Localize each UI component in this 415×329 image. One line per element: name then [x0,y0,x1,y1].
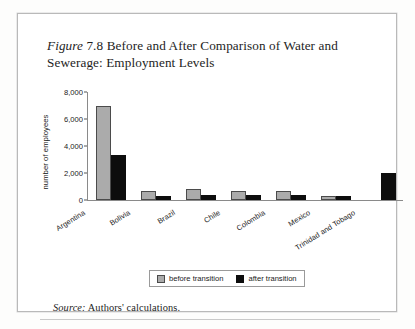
x-axis-label-slot: Chile [194,206,239,262]
figure-label: Figure [47,38,83,53]
bar-after[interactable] [381,173,396,200]
bar-before[interactable] [186,189,201,200]
bar-after[interactable] [291,195,306,200]
x-axis-tick-label: Chile [202,208,221,225]
figure-title: Figure 7.8 Before and After Comparison o… [47,38,377,71]
x-axis-label-slot: Argentina [59,206,104,262]
x-axis-tick-label: Colombia [235,208,267,233]
bar-before[interactable] [141,191,156,200]
bar-after[interactable] [336,196,351,200]
y-axis-label: number of employees [41,104,50,200]
chart-legend: before transition after transition [149,270,305,287]
legend-swatch-after-icon [236,275,244,283]
bar-group [313,92,358,200]
x-axis-line [87,200,403,201]
y-axis-tick-mark [84,200,87,201]
x-axis-tick-label: Mexico [287,208,312,228]
page-background: Figure 7.8 Before and After Comparison o… [0,0,415,329]
bar-before[interactable] [96,106,111,201]
source-label: Source: [53,302,86,313]
bar-after[interactable] [156,196,171,200]
page-frame: Figure 7.8 Before and After Comparison o… [17,13,397,312]
x-axis-label-slot: Bolivia [104,206,149,262]
page-rule-divider [40,319,380,320]
bar-group [268,92,313,200]
bar-groups [88,92,403,200]
legend-swatch-before-icon [157,275,165,283]
y-axis-tick-mark [84,173,87,174]
source-note: Source: Authors' calculations. [53,302,180,313]
figure-number: 7.8 [86,38,103,53]
bar-group [88,92,133,200]
y-axis-tick-mark [84,146,87,147]
x-axis-label-slot: Brazil [149,206,194,262]
bar-chart: number of employees 02,0004,0006,0008,00… [47,86,407,206]
x-axis-tick-label: Brazil [156,208,177,226]
bar-after[interactable] [201,195,216,200]
x-axis-labels: ArgentinaBoliviaBrazilChileColombiaMexic… [59,206,375,262]
x-axis-label-slot: Trinidad and Tobago [330,206,375,262]
y-axis-tick-mark [84,92,87,93]
x-axis-tick-label: Bolivia [108,208,132,228]
bar-group [358,92,403,200]
plot-area: 02,0004,0006,0008,000 [87,92,403,200]
bar-before[interactable] [231,191,246,200]
bar-group [223,92,268,200]
y-axis-tick-mark [84,119,87,120]
legend-label-before: before transition [169,274,223,283]
x-axis-tick-label: Argentina [54,208,86,233]
x-axis-label-slot: Colombia [240,206,285,262]
legend-item-before: before transition [157,274,223,283]
legend-item-after: after transition [236,274,296,283]
legend-label-after: after transition [248,274,296,283]
bar-group [133,92,178,200]
bar-after[interactable] [246,195,261,200]
bar-before[interactable] [321,196,336,200]
bar-after[interactable] [111,155,126,200]
bar-group [178,92,223,200]
source-text: Authors' calculations. [88,302,180,313]
bar-before[interactable] [276,191,291,200]
